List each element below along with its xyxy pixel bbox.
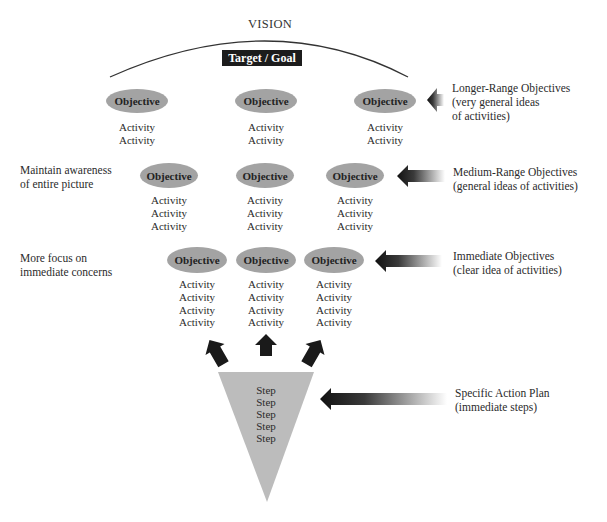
objective-longer-2: Objective <box>235 89 297 113</box>
activity: Activity <box>299 278 369 291</box>
activity: Activity <box>231 134 301 147</box>
label-immediate: Immediate Objectives (clear idea of acti… <box>453 249 562 277</box>
objective-longer-1: Objective <box>106 89 168 113</box>
objective-medium-2: Objective <box>236 163 294 188</box>
activity: Activity <box>350 121 420 134</box>
label-line: Medium-Range Objectives <box>453 165 578 179</box>
activity: Activity <box>134 220 204 233</box>
label-medium-range: Medium-Range Objectives (general ideas o… <box>453 165 578 193</box>
activity: Activity <box>320 194 390 207</box>
activity: Activity <box>299 316 369 329</box>
label-line: Specific Action Plan <box>455 386 550 400</box>
activity: Activity <box>231 316 301 329</box>
activity: Activity <box>231 291 301 304</box>
up-arrow-left-icon <box>200 335 233 370</box>
step: Step <box>240 432 292 444</box>
activity: Activity <box>162 291 232 304</box>
label-line: (very general ideas <box>452 95 570 109</box>
up-arrow-right-icon <box>297 335 330 370</box>
note-line: Maintain awareness <box>20 163 112 177</box>
up-arrow-center-icon <box>255 334 277 356</box>
activity: Activity <box>230 194 300 207</box>
activity: Activity <box>162 304 232 317</box>
vision-label: VISION <box>220 17 320 32</box>
objective-longer-3: Objective <box>354 89 416 113</box>
arrow-longer-range-icon <box>427 88 444 112</box>
note-line: More focus on <box>20 251 112 265</box>
target-goal-box: Target / Goal <box>222 50 302 66</box>
arrow-medium-range-icon <box>397 165 445 187</box>
label-line: (immediate steps) <box>455 400 550 414</box>
note-line: immediate concerns <box>20 265 112 279</box>
activity: Activity <box>162 278 232 291</box>
activities-immediate-3: Activity Activity Activity Activity <box>299 278 369 329</box>
objective-medium-3: Objective <box>326 163 384 188</box>
activities-immediate-2: Activity Activity Activity Activity <box>231 278 301 329</box>
objective-immediate-2: Objective <box>236 247 296 273</box>
objective-medium-1: Objective <box>140 163 198 188</box>
objective-immediate-3: Objective <box>304 247 364 273</box>
activity: Activity <box>320 220 390 233</box>
label-line: of activities) <box>452 109 570 123</box>
activity: Activity <box>231 278 301 291</box>
note-line: of entire picture <box>20 177 112 191</box>
activity: Activity <box>134 207 204 220</box>
activity: Activity <box>134 194 204 207</box>
activity: Activity <box>320 207 390 220</box>
activity: Activity <box>299 304 369 317</box>
activity: Activity <box>231 121 301 134</box>
activity: Activity <box>299 291 369 304</box>
note-maintain-awareness: Maintain awareness of entire picture <box>20 163 112 191</box>
activities-medium-2: Activity Activity Activity <box>230 194 300 232</box>
label-line: Longer-Range Objectives <box>452 81 570 95</box>
activities-immediate-1: Activity Activity Activity Activity <box>162 278 232 329</box>
arrow-immediate-icon <box>375 250 442 272</box>
activity: Activity <box>102 121 172 134</box>
activity: Activity <box>231 304 301 317</box>
label-longer-range: Longer-Range Objectives (very general id… <box>452 81 570 123</box>
label-action-plan: Specific Action Plan (immediate steps) <box>455 386 550 414</box>
step: Step <box>240 408 292 420</box>
activities-medium-1: Activity Activity Activity <box>134 194 204 232</box>
objective-immediate-1: Objective <box>167 247 227 273</box>
step: Step <box>240 396 292 408</box>
activities-longer-3: Activity Activity <box>350 121 420 147</box>
activities-longer-2: Activity Activity <box>231 121 301 147</box>
label-line: Immediate Objectives <box>453 249 562 263</box>
activity: Activity <box>230 207 300 220</box>
step: Step <box>240 420 292 432</box>
arrow-action-plan-icon <box>320 388 447 410</box>
activities-medium-3: Activity Activity Activity <box>320 194 390 232</box>
action-plan-steps: Step Step Step Step Step <box>240 384 292 444</box>
label-line: (clear idea of activities) <box>453 263 562 277</box>
label-line: (general ideas of activities) <box>453 179 578 193</box>
activities-longer-1: Activity Activity <box>102 121 172 147</box>
step: Step <box>240 384 292 396</box>
activity: Activity <box>230 220 300 233</box>
activity: Activity <box>350 134 420 147</box>
activity: Activity <box>162 316 232 329</box>
activity: Activity <box>102 134 172 147</box>
note-more-focus: More focus on immediate concerns <box>20 251 112 279</box>
